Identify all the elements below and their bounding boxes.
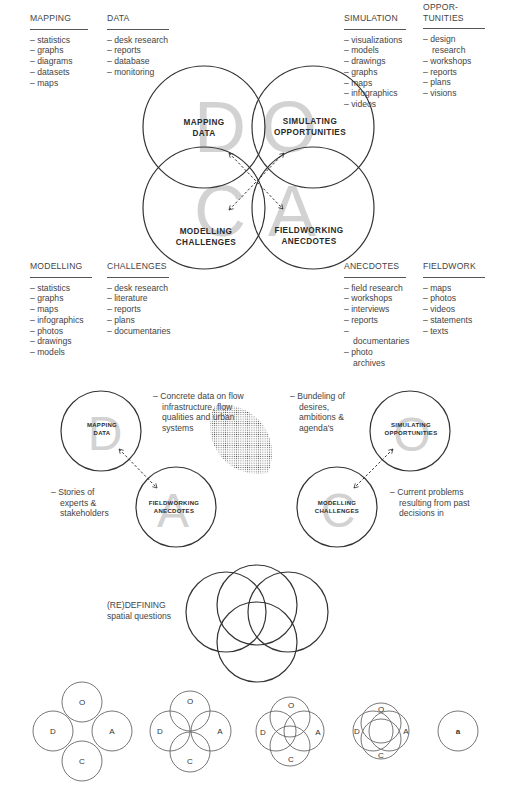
svg-text:A: A (109, 727, 115, 736)
dashed-double-arrow-icon (354, 449, 393, 488)
svg-text:SIMULATING: SIMULATING (391, 422, 431, 428)
svg-text:MODELLING: MODELLING (318, 500, 357, 506)
letter-d: D (194, 87, 246, 167)
svg-text:ANECDOTES: ANECDOTES (281, 237, 336, 246)
svg-text:O: O (187, 697, 193, 706)
note-bundeling: Bundeling of desires, ambitions & agenda… (290, 391, 360, 434)
svg-text:D: D (260, 728, 266, 737)
svg-text:A: A (315, 728, 321, 737)
svg-text:SIMULATING: SIMULATING (283, 117, 337, 126)
svg-text:C: C (288, 755, 294, 764)
main-doca-diagram: D O C A MAPPING DATA SIMULATING OPPORTUN… (143, 66, 374, 269)
diagram-canvas: D O C A MAPPING DATA SIMULATING OPPORTUN… (0, 0, 513, 791)
svg-text:MAPPING: MAPPING (87, 422, 117, 428)
svg-text:DATA: DATA (94, 430, 111, 436)
svg-text:C: C (187, 757, 193, 766)
svg-text:FIELDWORKING: FIELDWORKING (275, 226, 344, 235)
svg-text:ANECDOTES: ANECDOTES (154, 508, 194, 514)
svg-text:A: A (217, 727, 223, 736)
letter-o: O (261, 87, 317, 167)
svg-text:DATA: DATA (192, 129, 215, 138)
svg-text:OPPORTUNITIES: OPPORTUNITIES (274, 128, 346, 137)
dashed-double-arrow-icon (119, 449, 157, 488)
svg-text:C: C (79, 757, 85, 766)
note-concrete-data: Concrete data on flow infrastructure, fl… (153, 391, 248, 434)
svg-text:a: a (456, 727, 461, 736)
svg-text:O: O (378, 705, 384, 714)
svg-text:MAPPING: MAPPING (183, 118, 224, 127)
svg-text:C: C (378, 751, 384, 760)
svg-text:OPPORTUNITIES: OPPORTUNITIES (385, 430, 438, 436)
svg-text:O: O (79, 698, 85, 707)
svg-text:CHALLENGES: CHALLENGES (315, 508, 359, 514)
svg-text:FIELDWORKING: FIELDWORKING (149, 500, 200, 506)
svg-text:D: D (157, 727, 163, 736)
svg-text:A: A (403, 727, 409, 736)
svg-text:O: O (288, 701, 294, 710)
note-stories: Stories of experts & stakeholders (51, 487, 121, 519)
svg-text:CHALLENGES: CHALLENGES (176, 238, 237, 247)
redefining-label: (RE)DEFINING spatial questions (107, 600, 171, 621)
svg-text:D: D (50, 727, 56, 736)
sequence-diagrams (33, 682, 478, 781)
svg-text:MODELLING: MODELLING (180, 227, 233, 236)
note-current-problems: Current problems resulting from past dec… (390, 487, 480, 519)
svg-text:D: D (354, 727, 360, 736)
